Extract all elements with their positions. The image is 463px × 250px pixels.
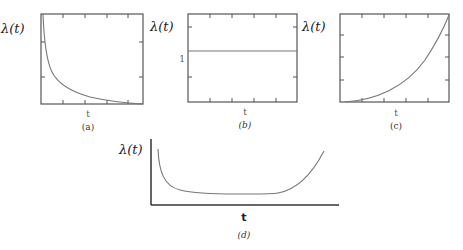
caption-a: (a) [82, 122, 94, 132]
y-axis-label-c: λ(t) [301, 19, 326, 34]
caption-b: (b) [239, 120, 252, 130]
x-axis-label-a: t [86, 109, 90, 119]
x-axis-label-c: t [394, 108, 398, 118]
caption-d: (d) [238, 230, 251, 240]
ticks-c [340, 14, 449, 102]
y-axis-label-b: λ(t) [149, 19, 174, 34]
curve-decreasing [43, 14, 143, 104]
y-axis-label-a: λ(t) [0, 21, 25, 36]
panel-d: λ(t) t (d) [118, 139, 339, 240]
side-mark-b: 1 [179, 54, 185, 64]
plot-frame-b [188, 14, 297, 102]
curve-increasing [345, 15, 449, 102]
panel-c: λ(t) t (c) [301, 14, 449, 131]
y-axis-label-d: λ(t) [118, 142, 143, 157]
plot-frame-c [340, 14, 449, 102]
caption-c: (c) [390, 121, 402, 131]
ticks-a [41, 14, 143, 104]
panel-b: λ(t) 1 t (b) [149, 14, 297, 130]
x-axis-label-d: t [241, 211, 246, 224]
x-axis-label-b: t [243, 107, 247, 117]
plot-frame-a [41, 14, 143, 104]
ticks-b [188, 14, 297, 102]
panel-a: λ(t) t (a) [0, 14, 143, 132]
curve-bathtub [158, 149, 324, 194]
figure: λ(t) t (a) λ(t) 1 t (b) λ(t) [0, 0, 463, 250]
